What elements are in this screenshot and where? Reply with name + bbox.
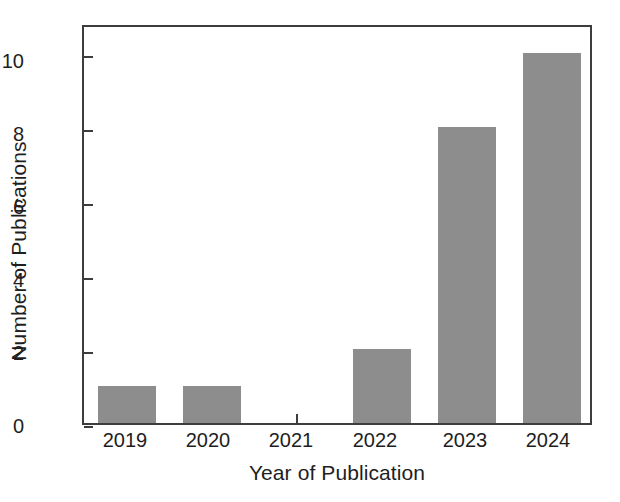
bar-2019 bbox=[98, 386, 156, 423]
y-tick-label: 6 bbox=[13, 196, 24, 219]
x-tick-label-2024: 2024 bbox=[526, 429, 571, 452]
y-tick-label: 2 bbox=[13, 342, 24, 365]
y-axis-tick bbox=[84, 352, 93, 354]
x-tick-label-2019: 2019 bbox=[103, 429, 148, 452]
y-tick-label: 10 bbox=[2, 50, 24, 73]
y-axis-tick bbox=[84, 130, 93, 132]
y-tick-label: 8 bbox=[13, 123, 24, 146]
plot-area bbox=[82, 25, 592, 425]
x-tick-label-2022: 2022 bbox=[353, 429, 398, 452]
x-tick-label-2021: 2021 bbox=[269, 429, 314, 452]
x-axis-tick bbox=[296, 414, 298, 423]
x-axis-title: Year of Publication bbox=[82, 461, 592, 485]
y-axis-tick bbox=[84, 204, 93, 206]
bar-2024 bbox=[523, 53, 581, 423]
x-tick-label-2020: 2020 bbox=[186, 429, 231, 452]
bar-2022 bbox=[353, 349, 411, 423]
y-tick-label: 4 bbox=[13, 269, 24, 292]
x-tick-label-2023: 2023 bbox=[443, 429, 488, 452]
bar-2020 bbox=[183, 386, 241, 423]
y-axis-tick bbox=[84, 56, 93, 58]
bar-2023 bbox=[438, 127, 496, 423]
bar-chart-figure: Number of Publications Year of Publicati… bbox=[0, 0, 620, 502]
y-axis-tick bbox=[84, 426, 93, 428]
y-axis-tick bbox=[84, 278, 93, 280]
y-tick-label: 0 bbox=[13, 415, 24, 438]
